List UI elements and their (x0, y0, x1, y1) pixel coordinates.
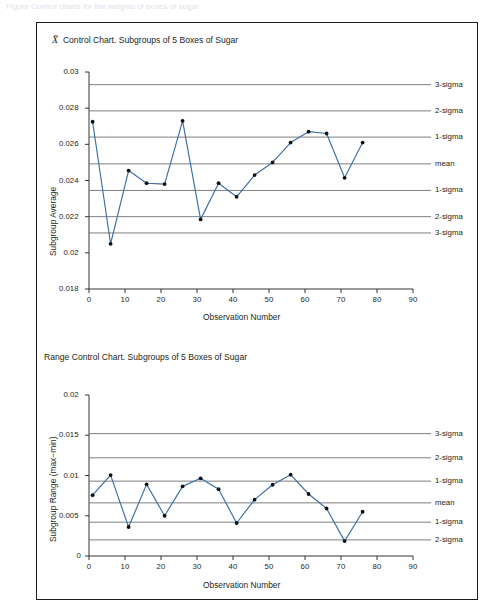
xtick-range-control-chart-70: 70 (337, 562, 346, 571)
xtick-xbar-control-chart-70: 70 (337, 295, 346, 304)
xtick-xbar-control-chart-10: 10 (121, 295, 130, 304)
limit-label-range-control-chart-4: 1-sigma (435, 517, 463, 526)
limit-label-xbar-control-chart-3: mean (435, 159, 455, 168)
ytick-range-control-chart-0.01: 0.01 (63, 471, 78, 480)
chart-title-range-control-chart: Range Control Chart. Subgroups of 5 Boxe… (44, 352, 247, 362)
xlabel-range-control-chart: Observation Number (203, 580, 280, 590)
ytick-xbar-control-chart-0.028: 0.028 (59, 103, 79, 112)
xtick-range-control-chart-60: 60 (301, 562, 310, 571)
limit-label-range-control-chart-2: 1-sigma (435, 476, 463, 485)
limit-label-xbar-control-chart-6: 3-sigma (435, 228, 463, 237)
xtick-xbar-control-chart-0: 0 (87, 295, 91, 304)
limit-label-range-control-chart-0: 3-sigma (435, 429, 463, 438)
ytick-range-control-chart-0: 0 (77, 551, 81, 560)
xtick-xbar-control-chart-20: 20 (157, 295, 166, 304)
limit-label-range-control-chart-1: 2-sigma (435, 453, 463, 462)
xtick-range-control-chart-10: 10 (121, 562, 130, 571)
xtick-xbar-control-chart-30: 30 (193, 295, 202, 304)
ytick-xbar-control-chart-0.024: 0.024 (59, 176, 79, 185)
xtick-xbar-control-chart-40: 40 (229, 295, 238, 304)
xtick-range-control-chart-20: 20 (157, 562, 166, 571)
xtick-range-control-chart-50: 50 (265, 562, 274, 571)
limit-label-range-control-chart-3: mean (435, 498, 455, 507)
ytick-range-control-chart-0.005: 0.005 (59, 511, 79, 520)
xtick-xbar-control-chart-50: 50 (265, 295, 274, 304)
xtick-range-control-chart-90: 90 (409, 562, 418, 571)
xtick-range-control-chart-30: 30 (193, 562, 202, 571)
limit-label-xbar-control-chart-1: 2-sigma (435, 106, 463, 115)
xlabel-xbar-control-chart: Observation Number (203, 312, 280, 322)
xtick-xbar-control-chart-90: 90 (409, 295, 418, 304)
ytick-xbar-control-chart-0.018: 0.018 (59, 284, 79, 293)
ytick-range-control-chart-0.02: 0.02 (63, 390, 78, 399)
chart-title-xbar-control-chart: X̄ Control Chart. Subgroups of 5 Boxes o… (52, 34, 238, 45)
limit-label-xbar-control-chart-4: 1-sigma (435, 185, 463, 194)
ytick-xbar-control-chart-0.02: 0.02 (63, 248, 78, 257)
limit-label-xbar-control-chart-0: 3-sigma (435, 80, 463, 89)
limit-label-xbar-control-chart-2: 1-sigma (435, 132, 463, 141)
xtick-xbar-control-chart-80: 80 (373, 295, 382, 304)
ylabel-range-control-chart: Subgroup Range (max−min) (48, 437, 58, 542)
limit-label-xbar-control-chart-5: 2-sigma (435, 212, 463, 221)
figure-frame (36, 22, 478, 600)
xtick-range-control-chart-80: 80 (373, 562, 382, 571)
xtick-range-control-chart-0: 0 (87, 562, 91, 571)
xtick-xbar-control-chart-60: 60 (301, 295, 310, 304)
ylabel-xbar-control-chart: Subgroup Average (48, 187, 58, 256)
xtick-range-control-chart-40: 40 (229, 562, 238, 571)
cut-off-figure-caption: Figure Control charts for the weights of… (0, 0, 486, 13)
ytick-range-control-chart-0.015: 0.015 (59, 430, 79, 439)
ytick-xbar-control-chart-0.022: 0.022 (59, 212, 79, 221)
ytick-xbar-control-chart-0.026: 0.026 (59, 139, 79, 148)
ytick-xbar-control-chart-0.03: 0.03 (63, 67, 78, 76)
limit-label-range-control-chart-5: 2-sigma (435, 535, 463, 544)
